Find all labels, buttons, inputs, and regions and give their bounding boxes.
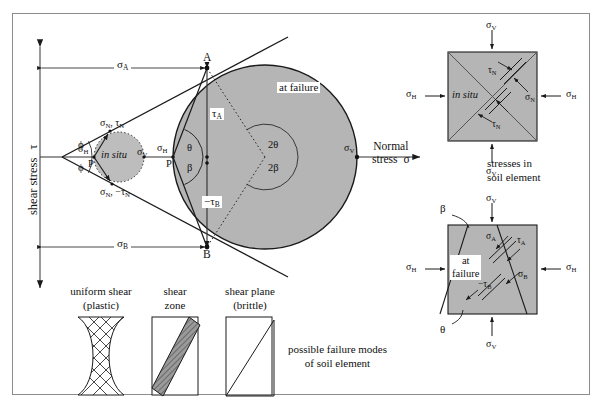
two-theta-angle-label: 2θ: [268, 140, 278, 151]
failure-el-sv-top-sub: V: [491, 197, 496, 204]
insitu-element-sigma-v-top: σV: [486, 20, 496, 31]
tau-b-label: −τB: [202, 196, 222, 208]
failure-element-label-line2: failure: [452, 268, 479, 281]
x-axis-label-line1: Normal: [372, 140, 410, 153]
failure-el-sb-sub: B: [523, 273, 527, 280]
main-sigma-v-label: σV: [344, 143, 354, 154]
mohr-circle-figure: shear stress τ Normal stress σ σA σB ϕ ϕ…: [0, 0, 602, 420]
main-sigma-h-label: σH: [157, 143, 167, 154]
failure-element-sigma-v-bottom: σV: [486, 339, 496, 350]
failure-el-sv-bot-sub: V: [491, 343, 496, 350]
soil-element-caption: stresses in soil element: [487, 157, 540, 185]
insitu-sigma-v-label: σV: [137, 147, 147, 158]
insitu-el-sh-left-sub: H: [411, 93, 416, 100]
failure-mode-2-line1: shear: [149, 285, 201, 299]
failure-mode-3-caption: shear plane (brittle): [212, 285, 288, 313]
tau-b-subscript: B: [215, 200, 220, 209]
failure-element-sigma-b: σB: [518, 270, 527, 280]
insitu-element-tau-n-top: τN: [488, 66, 497, 76]
soil-element-failure-graphic: [425, 203, 561, 336]
main-sigma-h-subscript: H: [162, 147, 167, 154]
soil-element-caption-line1: stresses in: [487, 157, 540, 171]
y-axis-label-text: shear stress: [26, 158, 40, 215]
insitu-tau-n-neg-symbol: −τ: [115, 186, 125, 197]
insitu-el-taun-top-sub: N: [492, 69, 497, 76]
failure-el-tb-symbol: −τ: [478, 279, 487, 289]
beta-symbol: β: [187, 162, 192, 173]
failure-modes-caption-line2: of soil element: [288, 356, 387, 370]
failure-el-beta-symbol: β: [440, 202, 446, 214]
failure-el-sh-right-sub: H: [571, 266, 576, 273]
insitu-label-text: in situ: [101, 149, 127, 160]
insitu-tau-n-neg-subscript: N: [125, 191, 130, 198]
main-pole-label: P: [166, 159, 172, 170]
failure-mode-2-caption: shear zone: [149, 285, 201, 313]
failure-el-tb-sub: B: [487, 283, 491, 290]
sigma-a-dimension-label: σA: [114, 59, 131, 71]
failure-mode-3-line2: (brittle): [212, 299, 288, 313]
failure-el-sa-sub: A: [491, 235, 496, 242]
failure-mode-1-line1: uniform shear: [55, 285, 147, 299]
failure-element-sigma-h-right: σH: [566, 262, 576, 273]
point-a-label: A: [203, 52, 211, 64]
failure-modes-caption: possible failure modes of soil element: [288, 342, 387, 371]
at-failure-label: at failure: [277, 82, 320, 93]
insitu-sigma-h-subscript: H: [83, 148, 88, 155]
insitu-el-taun-bot-sub: N: [496, 123, 501, 130]
failure-element-theta-label: θ: [440, 324, 445, 335]
x-axis-label: Normal stress σ: [372, 140, 410, 166]
failure-el-sh-left-sub: H: [411, 266, 416, 273]
insitu-el-sn-sub: N: [530, 96, 535, 103]
sigma-a-subscript: A: [123, 63, 128, 72]
failure-mohr-circle: [171, 65, 359, 249]
two-theta-symbol: 2θ: [268, 139, 278, 150]
tau-a-subscript: A: [216, 112, 221, 121]
insitu-element-sigma-n: σN: [525, 93, 535, 103]
soil-element-caption-line2: soil element: [487, 171, 540, 185]
theta-angle-label: θ: [187, 143, 192, 154]
sigma-b-subscript: B: [123, 242, 128, 251]
failure-mode-1-line2: (plastic): [55, 299, 147, 313]
main-pole-text: P: [166, 158, 172, 169]
insitu-element-label-text: in situ: [452, 89, 478, 100]
two-beta-angle-label: 2β: [268, 163, 279, 174]
tau-b-symbol: −τ: [204, 195, 215, 207]
insitu-element-label: in situ: [452, 90, 478, 101]
at-failure-text: at failure: [279, 81, 318, 93]
failure-mode-3-line1: shear plane: [212, 285, 288, 299]
main-sigma-v-subscript: V: [349, 147, 354, 154]
insitu-sigma-v-subscript: V: [142, 151, 147, 158]
phi-lower-symbol: ϕ: [78, 161, 84, 173]
y-axis-label: shear stress τ: [26, 145, 41, 215]
soil-element-insitu-graphic: [425, 30, 561, 163]
failure-element-tau-a: τA: [517, 236, 526, 246]
failure-mode-2-line2: zone: [149, 299, 201, 313]
failure-modes-caption-line1: possible failure modes: [288, 342, 387, 356]
point-b-text: B: [203, 248, 211, 260]
failure-mode-2-graphic: [152, 317, 200, 396]
tau-a-label: τA: [210, 108, 224, 120]
failure-mode-1-caption: uniform shear (plastic): [55, 285, 147, 313]
x-axis-label-line2: stress: [372, 153, 398, 165]
insitu-el-sh-right-sub: H: [571, 93, 576, 100]
failure-element-label: at failure: [450, 255, 481, 280]
insitu-pole-text: P: [88, 158, 94, 169]
insitu-element-sigma-h-right: σH: [566, 89, 576, 100]
two-beta-symbol: 2β: [268, 162, 279, 173]
y-axis-label-symbol: τ: [26, 145, 40, 150]
failure-element-sigma-a: σA: [486, 232, 496, 242]
phi-lower-label: ϕ: [78, 162, 84, 173]
insitu-element-tau-n-bottom: τN: [492, 120, 501, 130]
point-a-text: A: [203, 51, 211, 63]
insitu-element-sigma-h-left: σH: [406, 89, 416, 100]
failure-element-tau-b: −τB: [478, 280, 492, 290]
insitu-pole-label: P: [88, 159, 94, 170]
failure-el-theta-symbol: θ: [440, 323, 445, 335]
beta-angle-label: β: [187, 163, 192, 174]
insitu-tau-n-subscript: N: [119, 122, 124, 129]
insitu-sigma-h-label: σH: [78, 144, 88, 155]
failure-element-sigma-v-top: σV: [486, 193, 496, 204]
theta-symbol: θ: [187, 142, 192, 153]
point-b-label: B: [203, 249, 211, 261]
failure-element-sigma-h-left: σH: [406, 262, 416, 273]
